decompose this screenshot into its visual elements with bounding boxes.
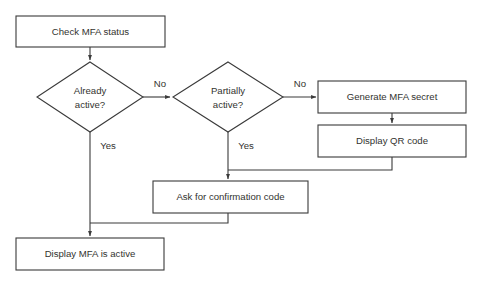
- node-check-mfa-status-label: Check MFA status: [52, 26, 130, 37]
- flowchart-svg: Partially active? --> down to Display MF…: [0, 0, 481, 283]
- node-display-qr-code-label: Display QR code: [356, 135, 428, 146]
- edge-label-already-active-no: No: [154, 78, 166, 89]
- node-display-qr-code[interactable]: Display QR code: [318, 125, 466, 157]
- edge-label-partially-active-no: No: [294, 78, 306, 89]
- node-partially-active-label-line1: Partially: [211, 85, 245, 96]
- flowchart-canvas: Partially active? --> down to Display MF…: [0, 0, 481, 283]
- edge-label-partially-active-yes: Yes: [238, 140, 254, 151]
- node-display-mfa-is-active[interactable]: Display MFA is active: [16, 238, 164, 270]
- node-partially-active-label-line2: active?: [213, 99, 243, 110]
- edge-label-already-active-yes: Yes: [100, 140, 116, 151]
- node-generate-mfa-secret-label: Generate MFA secret: [347, 91, 438, 102]
- node-already-active-label-line2: active?: [75, 99, 105, 110]
- node-already-active[interactable]: Already active?: [37, 62, 143, 132]
- node-generate-mfa-secret[interactable]: Generate MFA secret: [318, 81, 466, 113]
- edge-qr-to-ask-confirmation: [228, 157, 392, 170]
- node-partially-active[interactable]: Partially active?: [173, 62, 283, 132]
- node-display-mfa-is-active-label: Display MFA is active: [45, 248, 136, 259]
- node-check-mfa-status[interactable]: Check MFA status: [16, 16, 165, 47]
- node-ask-for-confirmation-code[interactable]: Ask for confirmation code: [153, 181, 308, 213]
- edge-ask-confirmation-to-display-active: [90, 213, 228, 223]
- node-ask-for-confirmation-code-label: Ask for confirmation code: [176, 191, 284, 202]
- node-already-active-label-line1: Already: [74, 85, 107, 96]
